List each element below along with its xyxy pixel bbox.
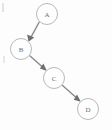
edge-b-to-c-arrowhead — [40, 63, 47, 71]
edge-c-to-d[interactable] — [62, 85, 81, 102]
node-d[interactable]: D — [78, 99, 99, 120]
graph-diagram: A B C D — [0, 0, 112, 130]
scan-artifact-top — [2, 3, 4, 12]
node-b[interactable]: B — [11, 39, 32, 60]
scan-artifact-group — [2, 3, 5, 63]
edge-a-to-b[interactable] — [27, 22, 39, 42]
node-a[interactable]: A — [37, 4, 58, 25]
edge-a-to-b-arrowhead — [27, 35, 34, 42]
node-c-label: C — [52, 75, 57, 83]
node-c[interactable]: C — [44, 68, 65, 89]
edge-b-to-c[interactable] — [30, 56, 47, 71]
node-a-label: A — [44, 11, 49, 19]
node-d-label: D — [85, 106, 90, 114]
node-b-label: B — [19, 46, 24, 54]
scan-artifact-middle — [3, 56, 5, 63]
graph-canvas: A B C D — [0, 0, 112, 130]
